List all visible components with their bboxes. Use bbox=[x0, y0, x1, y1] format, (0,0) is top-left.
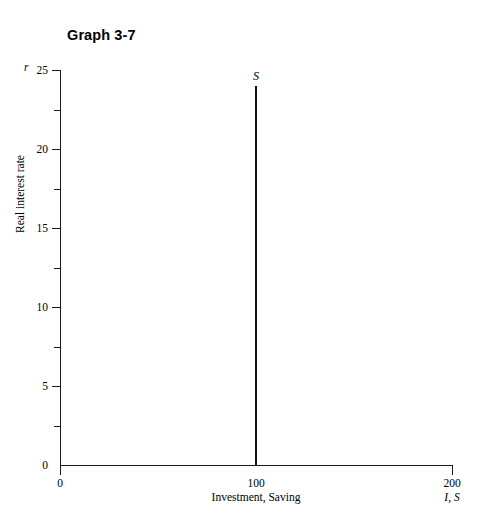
y-axis-tick bbox=[52, 70, 61, 71]
y-axis-tick bbox=[54, 189, 61, 190]
y-axis-tick-label: 5 bbox=[16, 380, 48, 392]
saving-curve-line bbox=[255, 86, 257, 465]
x-axis-tick-label: 0 bbox=[57, 477, 63, 489]
y-axis-tick bbox=[54, 426, 61, 427]
x-axis-tick bbox=[452, 466, 453, 475]
y-axis-tick-label: 25 bbox=[16, 64, 48, 76]
y-axis-tick-label: 0 bbox=[16, 459, 48, 471]
x-axis-tick-label: 200 bbox=[443, 477, 460, 489]
y-axis-tick bbox=[54, 268, 61, 269]
graph-figure: Graph 3-7 r Real interest rate 252015105… bbox=[0, 0, 477, 520]
y-axis-tick bbox=[54, 347, 61, 348]
x-axis-line bbox=[60, 465, 453, 466]
y-axis-tick-label: 15 bbox=[16, 222, 48, 234]
page-title: Graph 3-7 bbox=[67, 27, 136, 43]
x-axis-title: Investment, Saving bbox=[212, 491, 301, 503]
x-axis-tick bbox=[60, 466, 61, 475]
y-axis-tick-labels: 2520151050 bbox=[0, 0, 48, 520]
y-axis-tick bbox=[52, 228, 61, 229]
y-axis-tick-label: 20 bbox=[16, 143, 48, 155]
y-axis-tick bbox=[52, 386, 61, 387]
y-axis-tick bbox=[52, 149, 61, 150]
x-axis-tick-label: 100 bbox=[247, 477, 264, 489]
y-axis-tick bbox=[52, 307, 61, 308]
x-axis-symbol: I, S bbox=[444, 491, 459, 503]
y-axis-tick bbox=[54, 110, 61, 111]
y-axis-tick-label: 10 bbox=[16, 301, 48, 313]
saving-curve-label: S bbox=[253, 69, 259, 84]
